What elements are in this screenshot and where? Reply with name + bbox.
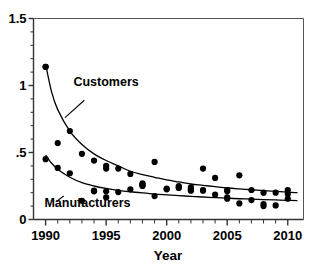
data-point [212,175,218,181]
data-point [115,165,121,171]
data-point [285,196,291,202]
y-tick-label: 1 [19,78,26,93]
annotation-leader-line [65,100,84,117]
data-point [79,151,85,157]
data-point [224,196,230,202]
data-point [200,188,206,194]
data-point [212,192,218,198]
data-point [248,187,254,193]
data-point [115,189,121,195]
data-point [200,165,206,171]
fit-curve-manufacturers [46,155,298,200]
data-point [43,64,49,70]
x-tick-label: 2000 [152,228,181,243]
data-point [127,186,133,192]
data-point [55,165,61,171]
y-tick-label: 1.5 [8,11,26,26]
data-point [103,165,109,171]
data-point [127,171,133,177]
data-point [260,190,266,196]
x-tick-label: 1990 [31,228,60,243]
data-point [236,172,242,178]
x-axis: 19901995200020052010 [31,220,302,243]
data-point [91,188,97,194]
x-axis-title: Year [154,248,183,263]
series-label-manufacturers: Manufacturers [44,196,130,210]
data-point [43,156,49,162]
data-point [188,188,194,194]
x-tick-label: 1995 [92,228,121,243]
data-point [176,185,182,191]
data-point [67,170,73,176]
data-point [91,157,97,163]
scatter-plot-canvas: 0.511.5 19901995200020052010 CustomersMa… [0,0,313,267]
data-point [55,140,61,146]
data-point [139,183,145,189]
data-point [67,128,73,134]
data-point [151,193,157,199]
data-point [273,190,279,196]
x-tick-label: 2010 [273,228,302,243]
x-tick-label: 2005 [213,228,242,243]
data-point [236,200,242,206]
data-point [224,188,230,194]
data-point [151,159,157,165]
data-point [260,201,266,207]
series-label-customers: Customers [73,75,138,89]
data-point [103,188,109,194]
data-point [273,202,279,208]
y-tick-label: .5 [16,145,27,160]
data-point [248,197,254,203]
data-point [164,186,170,192]
y-axis: 0.511.5 [8,11,33,227]
chart-figure: 0.511.5 19901995200020052010 CustomersMa… [0,0,313,267]
y-tick-label: 0 [19,212,26,227]
